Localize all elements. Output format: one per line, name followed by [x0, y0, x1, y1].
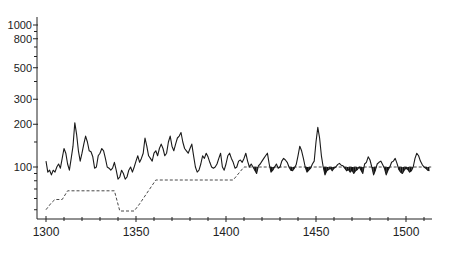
chart: 1002003005008001000 13001350140014501500 [0, 0, 454, 255]
y-tick-label: 500 [14, 62, 32, 74]
x-tick-label: 1300 [33, 225, 60, 239]
solid-series-line [46, 123, 429, 180]
x-tick-label: 1500 [393, 225, 420, 239]
y-tick-label: 800 [14, 33, 32, 45]
y-tick-label: 300 [14, 93, 32, 105]
deficit-fill-areas [253, 167, 429, 175]
x-tick-label: 1350 [123, 225, 150, 239]
x-tick-label: 1400 [213, 225, 240, 239]
y-tick-label: 200 [14, 118, 32, 130]
y-tick-label: 100 [14, 161, 32, 173]
x-axis: 13001350140014501500 [33, 216, 432, 239]
y-axis: 1002003005008001000 [8, 17, 38, 219]
x-tick-label: 1450 [303, 225, 330, 239]
y-tick-label: 1000 [8, 19, 32, 31]
